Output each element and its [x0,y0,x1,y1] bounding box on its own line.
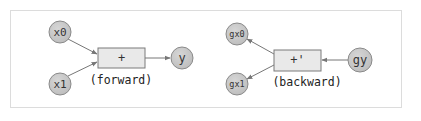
backward-graph: gx0 gx1 +' gy (backward) [226,23,372,95]
forward-graph: x0 x1 + y (forward) [49,21,193,95]
node-x1: x1 [49,73,71,95]
node-y-label: y [178,51,185,65]
node-x0-label: x0 [53,26,66,39]
node-y: y [171,47,193,69]
node-gx1-label: gx1 [229,79,244,89]
node-gx1: gx1 [226,73,248,95]
forward-caption: (forward) [90,73,152,87]
edge-add-grad-to-gx1 [247,65,274,79]
edge-x0-to-add [68,39,97,54]
node-gy: gy [348,48,372,72]
node-gx0: gx0 [226,23,248,45]
backward-caption: (backward) [272,75,341,89]
node-gy-label: gy [353,53,367,67]
node-x0: x0 [49,21,71,43]
add-function-label: + [118,51,125,65]
node-gx0-label: gx0 [229,29,244,39]
node-x1-label: x1 [53,78,66,91]
computational-graph: x0 x1 + y (forward) gx0 [0,0,421,121]
add-grad-function-label: +' [290,53,304,67]
add-function-box: + [98,48,145,68]
edge-add-grad-to-gx0 [247,39,274,54]
add-grad-function-box: +' [274,50,321,71]
